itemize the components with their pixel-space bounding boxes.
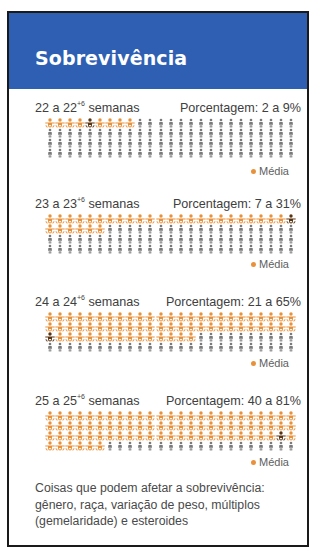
- baby-icon: [196, 342, 206, 352]
- survivor-baby-icon: [55, 224, 65, 234]
- survivor-baby-icon: [55, 431, 65, 441]
- survivor-baby-icon: [135, 431, 145, 441]
- baby-icon: [105, 441, 115, 451]
- baby-icon: [206, 234, 216, 244]
- baby-icon: [276, 342, 286, 352]
- baby-icon: [156, 224, 166, 234]
- legend-median: Média: [251, 357, 289, 369]
- survivor-baby-icon: [115, 332, 125, 342]
- baby-icon: [186, 138, 196, 148]
- baby-icon: [105, 128, 115, 138]
- baby-icon: [206, 224, 216, 234]
- survivor-baby-icon: [156, 431, 166, 441]
- baby-icon: [256, 342, 266, 352]
- baby-icon: [85, 234, 95, 244]
- survivor-baby-icon: [135, 322, 145, 332]
- baby-icon: [115, 244, 125, 254]
- pictogram-grid: [45, 312, 296, 352]
- survivor-baby-icon: [236, 421, 246, 431]
- survivor-baby-icon: [65, 441, 75, 451]
- survivor-baby-icon: [266, 312, 276, 322]
- survivor-baby-icon: [135, 411, 145, 421]
- baby-icon: [166, 148, 176, 158]
- survivor-baby-icon: [216, 214, 226, 224]
- survivor-baby-icon: [45, 214, 55, 224]
- baby-icon: [286, 234, 296, 244]
- survivor-baby-icon: [206, 322, 216, 332]
- baby-icon: [166, 138, 176, 148]
- median-dot-icon: [251, 361, 256, 366]
- survivor-baby-icon: [65, 118, 75, 128]
- baby-icon: [115, 342, 125, 352]
- card-title: Sobrevivência: [35, 47, 187, 69]
- baby-icon: [196, 224, 206, 234]
- survivor-baby-icon: [166, 312, 176, 322]
- baby-icon: [145, 342, 155, 352]
- baby-icon: [125, 128, 135, 138]
- baby-icon: [216, 342, 226, 352]
- survivor-baby-icon: [256, 421, 266, 431]
- baby-icon: [45, 234, 55, 244]
- survivor-baby-icon: [75, 214, 85, 224]
- baby-icon: [216, 244, 226, 254]
- baby-icon: [216, 234, 226, 244]
- baby-icon: [75, 128, 85, 138]
- baby-icon: [246, 148, 256, 158]
- survivor-baby-icon: [125, 322, 135, 332]
- baby-icon: [65, 148, 75, 158]
- baby-icon: [226, 118, 236, 128]
- survivor-baby-icon: [75, 322, 85, 332]
- survivor-baby-icon: [85, 441, 95, 451]
- baby-icon: [216, 138, 226, 148]
- baby-icon: [176, 441, 186, 451]
- baby-icon: [266, 244, 276, 254]
- survivor-baby-icon: [115, 421, 125, 431]
- baby-icon: [206, 128, 216, 138]
- survivor-baby-icon: [115, 322, 125, 332]
- baby-icon: [186, 244, 196, 254]
- survivor-baby-icon: [65, 322, 75, 332]
- baby-icon: [45, 148, 55, 158]
- survivor-baby-icon: [95, 411, 105, 421]
- baby-icon: [125, 148, 135, 158]
- survivor-baby-icon: [65, 224, 75, 234]
- survivor-baby-icon: [135, 214, 145, 224]
- survivor-baby-icon: [176, 411, 186, 421]
- survivor-baby-icon: [55, 214, 65, 224]
- percentage-label: Porcentagem: 21 a 65%: [166, 295, 301, 309]
- median-baby-icon: [286, 214, 296, 224]
- survivor-baby-icon: [105, 118, 115, 128]
- baby-icon: [276, 244, 286, 254]
- baby-icon: [75, 342, 85, 352]
- survivor-baby-icon: [286, 411, 296, 421]
- baby-icon: [65, 128, 75, 138]
- survivor-baby-icon: [166, 322, 176, 332]
- baby-icon: [246, 234, 256, 244]
- baby-icon: [186, 234, 196, 244]
- baby-icon: [286, 128, 296, 138]
- baby-icon: [145, 138, 155, 148]
- survivor-baby-icon: [246, 411, 256, 421]
- survivor-baby-icon: [226, 411, 236, 421]
- baby-icon: [145, 128, 155, 138]
- baby-icon: [186, 342, 196, 352]
- baby-icon: [156, 244, 166, 254]
- survivor-baby-icon: [216, 411, 226, 421]
- baby-icon: [246, 118, 256, 128]
- survivor-baby-icon: [85, 224, 95, 234]
- baby-icon: [125, 224, 135, 234]
- survivor-baby-icon: [266, 431, 276, 441]
- weeks-label: 25 a 25+6 semanas: [35, 394, 140, 408]
- baby-icon: [226, 244, 236, 254]
- baby-icon: [85, 138, 95, 148]
- survivor-baby-icon: [216, 431, 226, 441]
- baby-icon: [276, 234, 286, 244]
- survivor-baby-icon: [246, 322, 256, 332]
- baby-icon: [206, 148, 216, 158]
- survivor-baby-icon: [45, 411, 55, 421]
- survivor-baby-icon: [95, 312, 105, 322]
- survivor-baby-icon: [75, 431, 85, 441]
- baby-icon: [145, 234, 155, 244]
- survivor-baby-icon: [196, 322, 206, 332]
- survivor-baby-icon: [55, 421, 65, 431]
